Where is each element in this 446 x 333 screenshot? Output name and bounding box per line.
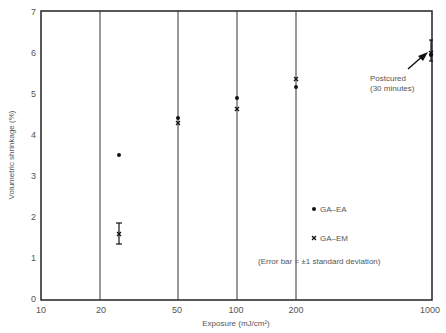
y-tick: 7 xyxy=(31,7,36,17)
x-tick: 200 xyxy=(288,305,303,315)
error-bars xyxy=(116,40,433,244)
postcured-label: Postcured xyxy=(370,74,406,83)
x-tick: 100 xyxy=(228,305,243,315)
data-point xyxy=(294,85,298,89)
postcured-sublabel: (30 minutes) xyxy=(370,84,415,93)
y-tick: 4 xyxy=(31,130,36,140)
y-tick: 6 xyxy=(31,48,36,58)
legend-x-icon xyxy=(312,236,316,240)
y-tick: 3 xyxy=(31,171,36,181)
data-point xyxy=(117,153,121,157)
series-ga-ea xyxy=(117,53,433,157)
legend-circle-icon xyxy=(312,207,316,211)
x-tick: 1000 xyxy=(420,305,440,315)
x-axis-ticks: 10 20 50 100 200 1000 xyxy=(36,305,440,315)
y-axis-ticks: 0 1 2 3 4 5 6 7 xyxy=(31,7,36,304)
x-tick: 10 xyxy=(36,305,46,315)
x-tick: 20 xyxy=(96,305,106,315)
x-axis-label: Exposure (mJ/cm²) xyxy=(202,319,270,328)
y-tick: 5 xyxy=(31,89,36,99)
data-point xyxy=(235,96,239,100)
errorbar-note: (Error bar = ±1 standard deviation) xyxy=(258,257,381,266)
x-tick: 50 xyxy=(172,305,182,315)
chart: 0 1 2 3 4 5 6 7 10 20 50 100 200 1000 Ex… xyxy=(0,0,446,333)
legend-em: GA–EM xyxy=(320,234,348,243)
y-tick: 1 xyxy=(31,253,36,263)
y-axis-label: Volumetric shrinkage (%) xyxy=(7,110,16,199)
legend: GA–EA GA–EM (Error bar = ±1 standard dev… xyxy=(258,205,381,266)
postcured-annotation: Postcured (30 minutes) xyxy=(370,52,428,93)
data-point xyxy=(176,116,180,120)
y-tick: 2 xyxy=(31,212,36,222)
y-tick: 0 xyxy=(31,294,36,304)
legend-ea: GA–EA xyxy=(320,205,347,214)
